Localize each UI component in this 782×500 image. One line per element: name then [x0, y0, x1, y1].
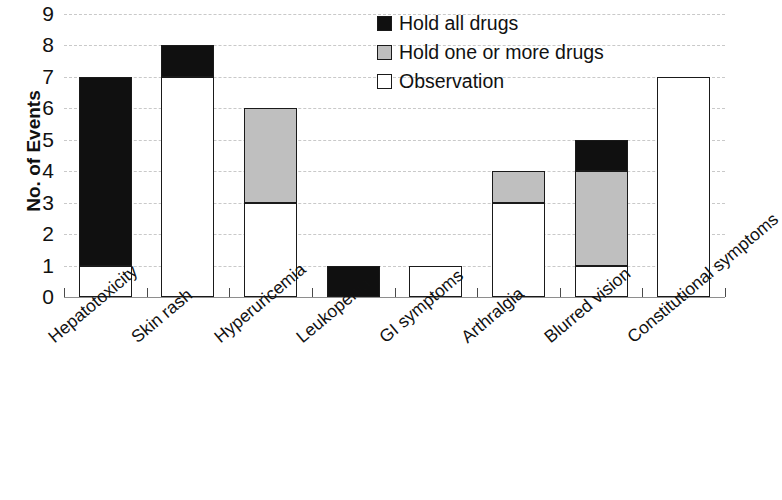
- bar-segment[interactable]: [161, 77, 214, 297]
- y-axis-tick-label: 2: [26, 223, 54, 244]
- bar-segment[interactable]: [327, 266, 380, 297]
- bar-segment[interactable]: [575, 171, 628, 265]
- bar-segment[interactable]: [244, 108, 297, 202]
- y-axis-tick-label: 0: [26, 286, 54, 307]
- y-axis-tick-label: 3: [26, 192, 54, 213]
- bar-segment[interactable]: [657, 77, 710, 297]
- legend-item-label: Hold all drugs: [399, 13, 518, 34]
- bar-group[interactable]: [161, 45, 214, 297]
- y-axis-tick-label: 1: [26, 255, 54, 276]
- legend-item-label: Hold one or more drugs: [399, 42, 604, 63]
- y-axis-tick-label: 4: [26, 160, 54, 181]
- y-axis-tick-label: 9: [26, 3, 54, 24]
- legend-swatch-icon: [377, 16, 392, 31]
- y-axis-tick-label: 8: [26, 34, 54, 55]
- bar-segment[interactable]: [492, 171, 545, 202]
- y-axis-tick-label: 5: [26, 129, 54, 150]
- y-axis-tick-label: 7: [26, 66, 54, 87]
- y-axis-tick-label: 6: [26, 97, 54, 118]
- bar-segment[interactable]: [79, 77, 132, 266]
- bar-segment[interactable]: [409, 266, 462, 297]
- bar-segment[interactable]: [79, 266, 132, 297]
- bar-segment[interactable]: [161, 45, 214, 76]
- legend-item: Observation: [377, 67, 707, 95]
- bar-group[interactable]: [657, 77, 710, 297]
- legend-item: Hold one or more drugs: [377, 38, 707, 66]
- axis-baseline: [64, 297, 725, 298]
- bar-group[interactable]: [575, 140, 628, 297]
- bar-segment[interactable]: [244, 203, 297, 297]
- chart-legend: Hold all drugsHold one or more drugsObse…: [377, 9, 707, 96]
- legend-swatch-icon: [377, 45, 392, 60]
- bar-group[interactable]: [244, 108, 297, 297]
- legend-item-label: Observation: [399, 71, 504, 92]
- bar-group[interactable]: [79, 77, 132, 297]
- legend-swatch-icon: [377, 74, 392, 89]
- bar-group[interactable]: [409, 266, 462, 297]
- bar-segment[interactable]: [492, 203, 545, 297]
- bar-group[interactable]: [327, 266, 380, 297]
- y-axis-tick-labels: 0123456789: [26, 0, 54, 500]
- bar-segment[interactable]: [575, 266, 628, 297]
- bar-group[interactable]: [492, 171, 545, 297]
- x-axis-tick: [725, 288, 726, 297]
- bar-segment[interactable]: [575, 140, 628, 171]
- legend-item: Hold all drugs: [377, 9, 707, 37]
